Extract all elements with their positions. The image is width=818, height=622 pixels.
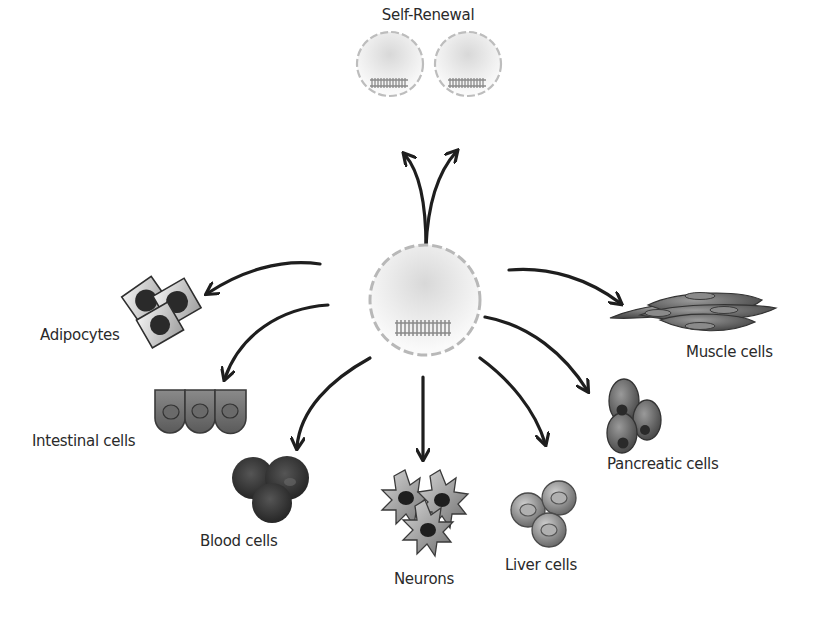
intestinal-cells-illustration [155, 390, 246, 434]
intestinal-cells-label: Intestinal cells [32, 432, 136, 450]
muscle-cells-illustration [610, 293, 776, 331]
daughter-cell-left [357, 32, 423, 96]
adipocytes-illustration [122, 276, 201, 348]
stem-cell-diagram: Self-Renewal [0, 0, 818, 622]
blood-cells-label: Blood cells [200, 532, 278, 550]
self-renewal-arrows [405, 152, 456, 247]
pancreatic-cells-illustration [607, 379, 661, 453]
liver-cells-illustration [511, 481, 576, 547]
pancreatic-cells-label: Pancreatic cells [607, 455, 719, 473]
self-renewal-label: Self-Renewal [382, 6, 475, 24]
liver-cells-label: Liver cells [505, 556, 577, 574]
neurons-illustration [382, 470, 468, 556]
blood-cells-illustration [232, 456, 309, 523]
daughter-cell-right [435, 32, 501, 96]
adipocytes-label: Adipocytes [40, 326, 120, 344]
stem-cell [370, 245, 480, 355]
neurons-label: Neurons [394, 570, 455, 588]
muscle-cells-label: Muscle cells [686, 343, 773, 361]
